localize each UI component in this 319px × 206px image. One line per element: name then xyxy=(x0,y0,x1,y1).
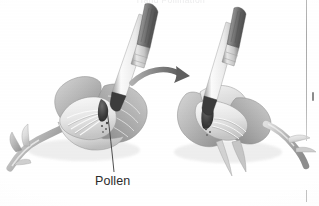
left-flower-panel xyxy=(10,3,158,168)
page-edge-tick-mark xyxy=(312,92,314,101)
transfer-arrow xyxy=(132,66,190,83)
pollen-label: Pollen xyxy=(95,174,130,188)
right-flower-panel xyxy=(174,7,316,176)
illustration-canvas xyxy=(0,0,319,206)
page-rule-line-lower xyxy=(306,190,307,202)
right-flower-stem xyxy=(266,124,316,166)
hand-pollination-figure: Hand Pollination xyxy=(0,0,319,206)
page-rule-line xyxy=(306,0,307,141)
